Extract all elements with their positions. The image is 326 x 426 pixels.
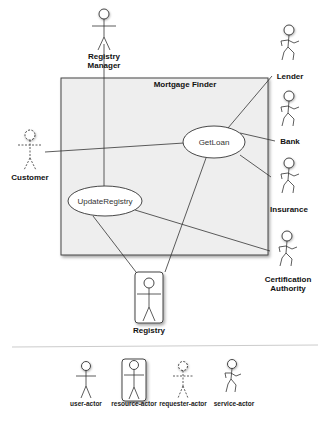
- actor-label: Insurance: [270, 205, 308, 214]
- service-actor-icon: [281, 91, 299, 126]
- legend-label: user-actor: [70, 400, 102, 407]
- legend-item-requester-actor: requester-actor: [159, 362, 207, 409]
- actor-bank[interactable]: Bank: [280, 91, 300, 146]
- actor-label: Customer: [11, 173, 48, 182]
- use-case-label: UpdateRegistry: [77, 197, 132, 206]
- actor-registry[interactable]: Registry: [133, 272, 166, 335]
- legend-item-resource-actor: resource-actor: [111, 359, 157, 407]
- actor-insurance[interactable]: Insurance: [270, 158, 308, 214]
- service-actor-icon: [281, 25, 299, 60]
- legend-item-user-actor: user-actor: [70, 362, 102, 408]
- use-case-updateregistry[interactable]: UpdateRegistry: [68, 186, 142, 216]
- use-case-getloan[interactable]: GetLoan: [183, 126, 245, 158]
- user-actor-icon: [92, 9, 116, 50]
- requester-actor-icon: [18, 130, 42, 170]
- service-actor-icon: [279, 231, 297, 266]
- legend-label: service-actor: [214, 400, 255, 407]
- actor-label: Bank: [280, 137, 300, 146]
- actor-certification-authority[interactable]: Certification Authority: [265, 231, 312, 293]
- user-actor-icon: [76, 362, 96, 399]
- service-actor-icon: [281, 158, 299, 193]
- actor-label: Certification: [265, 275, 312, 284]
- actor-customer[interactable]: Customer: [11, 130, 48, 182]
- actor-label: Manager: [88, 61, 121, 70]
- legend: user-actor resource-actor requester-acto…: [70, 359, 255, 408]
- legend-label: resource-actor: [111, 400, 157, 407]
- legend-label: requester-actor: [159, 400, 207, 408]
- actor-label: Authority: [270, 284, 306, 293]
- actor-lender[interactable]: Lender: [277, 25, 304, 81]
- actor-label: Registry: [133, 326, 166, 335]
- actor-label: Lender: [277, 72, 304, 81]
- resource-actor-icon: [135, 272, 163, 323]
- actor-registry-manager[interactable]: Registry Manager: [88, 9, 121, 70]
- resource-actor-icon: [122, 359, 146, 401]
- service-actor-icon: [225, 360, 241, 393]
- use-case-diagram: Mortgage Finder GetLoan UpdateRegistry R…: [0, 0, 326, 426]
- legend-divider: [12, 345, 318, 347]
- use-case-label: GetLoan: [199, 138, 230, 147]
- requester-actor-icon: [173, 362, 193, 399]
- system-title: Mortgage Finder: [154, 80, 217, 89]
- actor-label: Registry: [88, 52, 121, 61]
- system-boundary[interactable]: Mortgage Finder: [61, 78, 268, 255]
- legend-item-service-actor: service-actor: [214, 360, 255, 408]
